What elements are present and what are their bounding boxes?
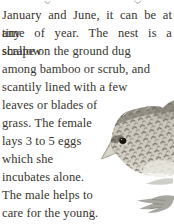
text-line: incubates alone. [2,168,172,186]
book-page: January and June, it can be at any time … [0,0,174,224]
paragraph: January and June, it can be at any time … [2,6,172,222]
text-line: grass. The female [2,114,172,132]
text-line: among bamboo or scrub, and [2,60,172,78]
text-line: January and June, it can be at any [2,6,172,24]
text-line: care for the young. [2,204,172,222]
text-line: leaves or blades of [2,96,172,114]
text-line: The male helps to [2,186,172,204]
text-line: time of year. The nest is a shallow [2,24,172,42]
clipped-text-fragments [45,1,141,4]
text-line: which she [2,150,172,168]
text-line: lays 3 to 5 eggs [2,132,172,150]
text-line: scrape on the ground dug [2,42,172,60]
text-line: scantily lined with a few [2,78,172,96]
